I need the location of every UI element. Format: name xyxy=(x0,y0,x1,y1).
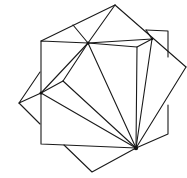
inner-to-left-node xyxy=(41,81,63,93)
bottom-square xyxy=(64,145,136,172)
left-node xyxy=(40,92,43,95)
right-bottom-frame xyxy=(136,105,168,148)
right-node xyxy=(151,38,153,40)
apex-to-center xyxy=(88,5,115,43)
upright-square xyxy=(41,41,137,148)
left-kite xyxy=(19,72,41,103)
center-to-left-node xyxy=(41,43,88,93)
edge-right-down xyxy=(136,67,186,148)
hub-to-inner xyxy=(63,81,136,148)
center-node xyxy=(87,42,90,45)
right-node-to-hub xyxy=(136,39,152,148)
mid-to-center xyxy=(73,25,88,43)
left-apex-lower xyxy=(19,103,40,124)
hub-node xyxy=(134,146,138,150)
cube-top-edge xyxy=(88,39,152,43)
right-to-frame xyxy=(146,30,152,39)
hub-to-left-node xyxy=(41,93,136,148)
diagram-svg xyxy=(0,0,187,178)
hub-to-center xyxy=(88,43,136,148)
edge-top-left xyxy=(41,5,115,41)
center-to-inner xyxy=(63,43,88,81)
geometric-diagram xyxy=(0,0,187,178)
